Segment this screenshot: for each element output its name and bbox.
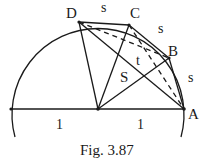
label-D: D [66, 5, 77, 21]
label-C: C [130, 5, 140, 21]
arc-label-CB: s [158, 21, 163, 36]
radius-OB [98, 58, 169, 109]
point-D [77, 20, 80, 23]
label-A: A [188, 106, 199, 122]
arc-label-DC: s [101, 0, 106, 15]
chord-DC [79, 22, 129, 25]
radius-OC [98, 25, 129, 109]
arc-label-BA: s [188, 70, 193, 85]
label-B: B [168, 43, 178, 59]
circle-arc [12, 28, 184, 137]
figure-caption: Fig. 3.87 [80, 142, 134, 158]
region-label-t: t [136, 53, 140, 68]
region-label-S: S [120, 69, 128, 85]
radius-label-right: 1 [137, 117, 144, 132]
chord-BA [169, 58, 184, 109]
radius-label-left: 1 [56, 117, 63, 132]
point-A [182, 107, 186, 111]
point-C [127, 23, 130, 26]
dashed-chord-DB [79, 22, 169, 58]
point-center [96, 107, 100, 111]
point-left-end [9, 107, 12, 110]
semicircle-diagram: D C B A s s s S t 1 1 Fig. 3.87 [0, 0, 203, 161]
